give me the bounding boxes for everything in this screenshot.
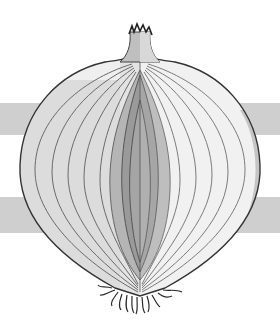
onion-illustration [0, 0, 280, 324]
onion-neck [120, 24, 160, 62]
